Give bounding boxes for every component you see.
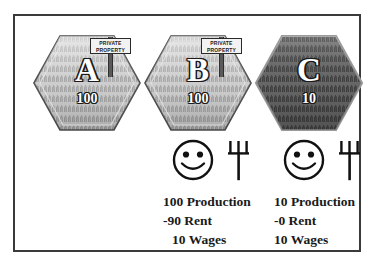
smiley-and-pitchfork-b <box>171 138 255 182</box>
smiley-face-icon <box>174 141 212 179</box>
figure-root: A 100 PRIVATE PROPERTY <box>0 0 374 270</box>
pitchfork-icon <box>228 141 249 180</box>
ledger-b-wages: 10 Wages <box>163 230 287 249</box>
ledger-c-wages: 10 Wages <box>274 230 374 249</box>
pitchfork-icon <box>339 141 360 180</box>
diagram-frame: A 100 PRIVATE PROPERTY <box>13 14 361 252</box>
parcel-a: A 100 PRIVATE PROPERTY <box>32 32 142 134</box>
hexagon-a-shape <box>32 32 142 134</box>
hexagon-b-shape <box>143 32 253 134</box>
smiley-and-pitchfork-c <box>282 138 366 182</box>
ledger-b-production: 100 Production <box>163 192 287 211</box>
parcel-b: B 100 PRIVATE PROPERTY <box>143 32 253 134</box>
hexagon-c-shape <box>254 32 364 134</box>
ledger-b-rent: -90 Rent <box>163 211 287 230</box>
worker-icons-c <box>282 138 366 182</box>
ledger-b: 100 Production -90 Rent 10 Wages <box>163 192 287 249</box>
parcel-c: C 10 <box>254 32 364 134</box>
ledger-c: 10 Production -0 Rent 10 Wages <box>274 192 374 249</box>
smiley-face-icon <box>285 141 323 179</box>
ledger-c-rent: -0 Rent <box>274 211 374 230</box>
worker-icons-b <box>171 138 255 182</box>
ledger-c-production: 10 Production <box>274 192 374 211</box>
